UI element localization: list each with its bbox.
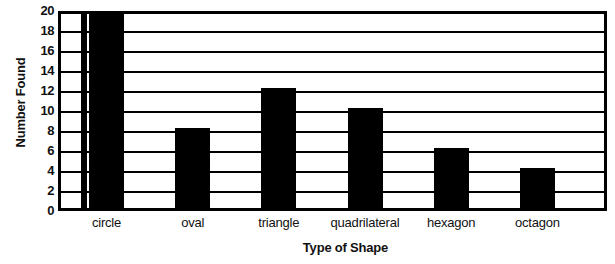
x-tick-label-octagon: octagon (477, 214, 597, 232)
gridline (87, 31, 604, 33)
x-axis-tick-labels: circleovaltrianglequadrilateralhexagonoc… (84, 214, 607, 234)
tick-box-divider (61, 91, 81, 93)
bar-circle (89, 11, 124, 208)
y-tick-label: 18 (24, 24, 54, 37)
y-axis-tick-labels: 20181614121086420 (24, 11, 54, 211)
tick-box-divider (61, 131, 81, 133)
plot-area (84, 11, 607, 211)
y-tick-label: 20 (24, 4, 54, 17)
y-tick-label: 14 (24, 64, 54, 77)
y-tick-label: 2 (24, 184, 54, 197)
bar-hexagon (434, 148, 469, 208)
x-axis-title: Type of Shape (84, 240, 607, 255)
tick-box-divider (61, 151, 81, 153)
gridline (87, 131, 604, 133)
bar-quadrilateral (348, 108, 383, 208)
y-tick-label: 10 (24, 104, 54, 117)
y-tick-label: 4 (24, 164, 54, 177)
gridline (87, 71, 604, 73)
tick-box-divider (61, 51, 81, 53)
bar-chart: Number Found 20181614121086420 circleova… (0, 0, 615, 264)
y-tick-label: 6 (24, 144, 54, 157)
bar-oval (175, 128, 210, 208)
tick-box-divider (61, 31, 81, 33)
gridline (87, 91, 604, 93)
y-tick-label: 8 (24, 124, 54, 137)
bar-triangle (261, 88, 296, 208)
bar-octagon (520, 168, 555, 208)
y-tick-label: 16 (24, 44, 54, 57)
y-tick-label: 12 (24, 84, 54, 97)
y-axis-tick-column (58, 11, 84, 211)
gridline (87, 151, 604, 153)
gridline (87, 111, 604, 113)
tick-box-divider (61, 191, 81, 193)
gridline (87, 51, 604, 53)
tick-box-divider (61, 171, 81, 173)
tick-box-divider (61, 111, 81, 113)
tick-box-divider (61, 71, 81, 73)
